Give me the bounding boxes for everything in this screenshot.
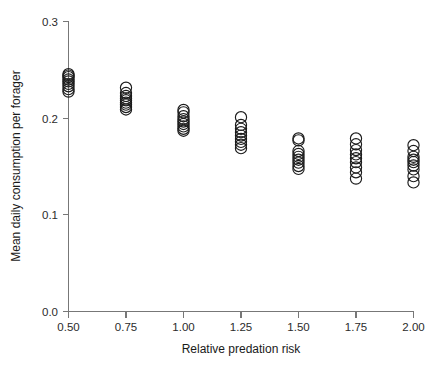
x-tick-label: 0.50 — [57, 321, 79, 333]
scatter-plot-figure: 0.3 0.2 0.1 0.0 0.50 0.75 1.00 1.25 1.50… — [0, 0, 438, 371]
y-tick-label: 0.1 — [42, 209, 58, 221]
y-tick-label: 0.3 — [42, 16, 58, 28]
x-tick-label: 1.75 — [345, 321, 367, 333]
y-axis-title: Mean daily consumption per forager — [9, 70, 23, 261]
x-tick-label: 1.25 — [230, 321, 252, 333]
y-tick-label: 0.0 — [42, 306, 58, 318]
x-tick-label: 1.00 — [172, 321, 194, 333]
x-axis-title: Relative predation risk — [182, 342, 302, 356]
plot-background — [0, 0, 438, 371]
y-tick-label: 0.2 — [42, 113, 58, 125]
x-tick-label: 1.50 — [287, 321, 309, 333]
x-tick-label: 2.00 — [402, 321, 424, 333]
x-tick-label: 0.75 — [115, 321, 137, 333]
